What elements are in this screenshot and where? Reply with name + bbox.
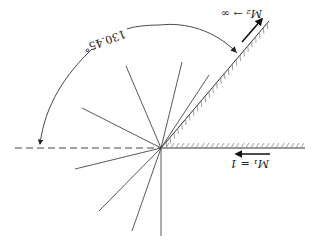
angle-arc-lower (40, 49, 92, 144)
horizontal-wall (161, 143, 305, 148)
expansion-ray (132, 148, 161, 231)
angle-arc (160, 24, 237, 53)
downstream-mach-label: M₂ → ∞ (221, 7, 263, 20)
expansion-ray (126, 66, 161, 148)
angle-label: 130.45° (82, 27, 128, 54)
downstream-flow-arrow (242, 19, 262, 42)
expansion-ray (99, 148, 161, 211)
upstream-mach-label: M₁ = 1 (230, 157, 270, 170)
prandtl-meyer-expansion-diagram: 130.45° M₁ = 1 M₂ → ∞ (0, 0, 320, 250)
expansion-fan-rays (75, 62, 209, 236)
expansion-ray (75, 148, 161, 169)
expansion-ray (82, 108, 161, 148)
expansion-ray (161, 75, 209, 148)
inclined-wall (161, 21, 269, 148)
